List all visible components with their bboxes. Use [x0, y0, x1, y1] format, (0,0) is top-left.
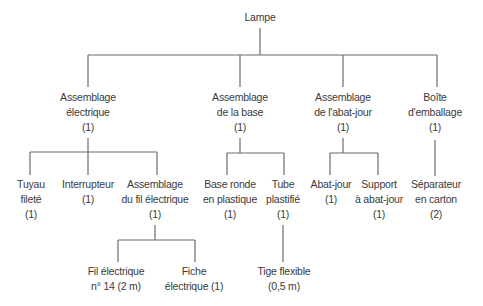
- node-label: de la base: [212, 105, 268, 120]
- node-assemblage-electrique: Assemblage électrique (1): [60, 90, 116, 135]
- node-qty: (1): [203, 207, 257, 222]
- node-label: de l'abat-jour: [314, 105, 372, 120]
- node-boite-emballage: Boîte d'emballage (1): [408, 90, 462, 135]
- node-qty: (1): [121, 207, 188, 222]
- node-label: Fil électrique: [88, 264, 145, 279]
- node-qty: (1): [60, 120, 116, 135]
- node-label: Assemblage: [121, 177, 188, 192]
- node-label: électrique: [60, 105, 116, 120]
- node-qty: (1): [355, 207, 403, 222]
- node-abat-jour: Abat-jour (1): [311, 177, 352, 207]
- node-label: Base ronde: [203, 177, 257, 192]
- node-label: Interrupteur: [62, 177, 114, 192]
- node-assemblage-abat-jour: Assemblage de l'abat-jour (1): [314, 90, 372, 135]
- node-label: plastifié: [266, 192, 300, 207]
- node-qty: (2): [411, 207, 461, 222]
- node-qty: (1): [311, 192, 352, 207]
- node-assemblage-fil: Assemblage du fil électrique (1): [121, 177, 188, 222]
- node-qty: (1): [17, 207, 45, 222]
- node-label: Assemblage: [60, 90, 116, 105]
- node-label: Support: [355, 177, 403, 192]
- node-label: Assemblage: [212, 90, 268, 105]
- node-label: Fiche: [165, 264, 223, 279]
- node-support-abat-jour: Support à abat-jour (1): [355, 177, 403, 222]
- node-separateur: Séparateur en carton (2): [411, 177, 461, 222]
- node-interrupteur: Interrupteur (1): [62, 177, 114, 207]
- node-label: Lampe: [244, 10, 275, 25]
- node-label: Séparateur: [411, 177, 461, 192]
- node-qty: (1): [266, 207, 300, 222]
- node-label: Tuyau: [17, 177, 45, 192]
- node-label: en plastique: [203, 192, 257, 207]
- node-tuyau-filete: Tuyau fileté (1): [17, 177, 45, 222]
- node-qty: (1): [62, 192, 114, 207]
- node-label: Boîte: [408, 90, 462, 105]
- node-label: à abat-jour: [355, 192, 403, 207]
- node-label: Assemblage: [314, 90, 372, 105]
- node-label: du fil électrique: [121, 192, 188, 207]
- node-qty: (1): [212, 120, 268, 135]
- node-tube-plastifie: Tube plastifié (1): [266, 177, 300, 222]
- node-fiche-electrique: Fiche électrique (1): [165, 264, 223, 294]
- node-label: électrique (1): [165, 279, 223, 294]
- bom-tree-diagram: Lampe Assemblage électrique (1) Assembla…: [0, 0, 483, 306]
- node-label: en carton: [411, 192, 461, 207]
- node-qty: (1): [314, 120, 372, 135]
- node-qty: (1): [408, 120, 462, 135]
- connector-lines: [0, 0, 483, 306]
- node-fil-electrique: Fil électrique n° 14 (2 m): [88, 264, 145, 294]
- node-label: Abat-jour: [311, 177, 352, 192]
- node-tige-flexible: Tige flexible (0,5 m): [257, 264, 310, 294]
- node-lampe: Lampe: [244, 10, 275, 25]
- node-label: fileté: [17, 192, 45, 207]
- node-base-ronde: Base ronde en plastique (1): [203, 177, 257, 222]
- node-assemblage-base: Assemblage de la base (1): [212, 90, 268, 135]
- node-label: d'emballage: [408, 105, 462, 120]
- node-label: (0,5 m): [257, 279, 310, 294]
- node-label: Tube: [266, 177, 300, 192]
- node-label: n° 14 (2 m): [88, 279, 145, 294]
- node-label: Tige flexible: [257, 264, 310, 279]
